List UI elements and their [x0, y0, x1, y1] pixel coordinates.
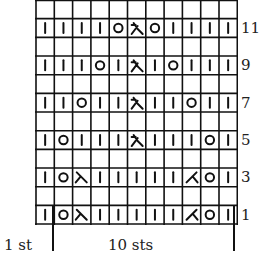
yarn-over-icon [187, 98, 195, 106]
one-stitch-label: 1 st [4, 236, 32, 254]
yarn-over-icon [206, 136, 214, 144]
stitch-divider-right [233, 205, 235, 251]
row-label-9: 9 [241, 56, 251, 74]
yarn-over-icon [59, 173, 67, 181]
row-label-1: 1 [241, 206, 251, 224]
row-label-3: 3 [241, 168, 251, 186]
yarn-over-icon [59, 136, 67, 144]
yarn-over-icon [78, 98, 86, 106]
double-decrease-icon [132, 60, 143, 71]
yarn-over-icon [169, 61, 177, 69]
double-decrease-icon [132, 23, 143, 34]
yarn-over-icon [206, 173, 214, 181]
right-decrease-icon [187, 172, 198, 182]
chart-svg [35, 0, 238, 226]
yarn-over-icon [59, 211, 67, 219]
left-decrease-icon [76, 210, 87, 220]
yarn-over-icon [96, 61, 104, 69]
yarn-over-icon [151, 24, 159, 32]
knitting-chart-grid [35, 0, 238, 230]
stitch-divider-left [52, 205, 54, 251]
yarn-over-icon [114, 24, 122, 32]
yarn-over-icon [206, 211, 214, 219]
left-decrease-icon [76, 172, 87, 182]
row-label-11: 11 [241, 19, 260, 37]
right-decrease-icon [187, 210, 198, 220]
repeat-label: 10 sts [108, 236, 153, 254]
row-label-5: 5 [241, 131, 251, 149]
double-decrease-icon [132, 135, 143, 146]
row-label-7: 7 [241, 94, 251, 112]
double-decrease-icon [132, 98, 143, 109]
